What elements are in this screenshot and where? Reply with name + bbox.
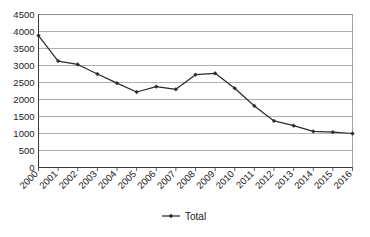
y-axis-tick-label: 1000 <box>13 128 34 139</box>
chart-canvas: 050010001500200025003000350040004500 200… <box>0 0 370 237</box>
y-axis-tick-label: 4500 <box>13 9 34 20</box>
y-axis-tick-label: 4000 <box>13 26 34 37</box>
legend-label-total: Total <box>185 211 206 222</box>
y-axis-tick-label: 1500 <box>13 111 34 122</box>
chart-background <box>0 0 370 237</box>
y-axis-tick-label: 2500 <box>13 77 34 88</box>
line-chart: 050010001500200025003000350040004500 200… <box>0 0 370 237</box>
y-axis-tick-label: 3000 <box>13 60 34 71</box>
y-axis-tick-label: 500 <box>19 145 35 156</box>
y-axis-tick-label: 2000 <box>13 94 34 105</box>
y-axis-tick-label: 3500 <box>13 43 34 54</box>
